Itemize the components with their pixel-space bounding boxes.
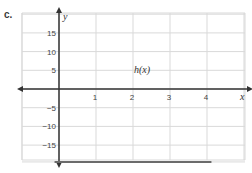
svg-text:4: 4 [204,93,209,102]
svg-text:−15: −15 [42,141,56,150]
svg-text:−10: −10 [42,122,56,131]
y-axis-label: y [62,11,68,22]
svg-text:2: 2 [130,93,135,102]
curve-label: h(x) [134,64,151,76]
svg-text:3: 3 [167,93,172,102]
svg-text:5: 5 [52,66,57,75]
svg-text:1: 1 [93,93,98,102]
svg-text:15: 15 [47,29,56,38]
svg-text:−5: −5 [47,104,57,113]
svg-text:10: 10 [47,48,56,57]
x-axis-label: x [239,91,245,102]
function-graph: 123415105−5−10−15 h(x) x y [0,0,252,173]
